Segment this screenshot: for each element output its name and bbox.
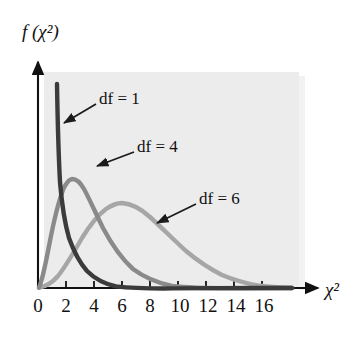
x-tick-label: 14 — [227, 295, 247, 316]
annotation-label-df-6: df = 6 — [199, 189, 240, 208]
chart-canvas: 0 2 4 6 8 10 12 14 16 f (χ²) χ² df = 1 d… — [0, 0, 364, 339]
plot-area-background — [44, 72, 299, 288]
x-axis-label: χ² — [323, 279, 339, 300]
y-axis-label: f (χ²) — [22, 21, 59, 43]
x-axis-tick-labels: 0 2 4 6 8 10 12 14 16 — [33, 295, 273, 316]
annotation-label-df-1: df = 1 — [99, 89, 140, 108]
annotation-label-df-4: df = 4 — [137, 137, 178, 156]
x-tick-label: 12 — [199, 295, 218, 316]
x-tick-label: 16 — [255, 295, 274, 316]
chi-square-distribution-figure: 0 2 4 6 8 10 12 14 16 f (χ²) χ² df = 1 d… — [0, 0, 364, 339]
x-tick-label: 8 — [145, 295, 155, 316]
x-tick-label: 6 — [117, 295, 127, 316]
x-tick-label: 2 — [61, 295, 71, 316]
x-tick-label: 0 — [33, 295, 43, 316]
x-tick-label: 10 — [171, 295, 190, 316]
plot-area-edge-shade — [299, 76, 305, 290]
x-tick-label: 4 — [89, 295, 99, 316]
